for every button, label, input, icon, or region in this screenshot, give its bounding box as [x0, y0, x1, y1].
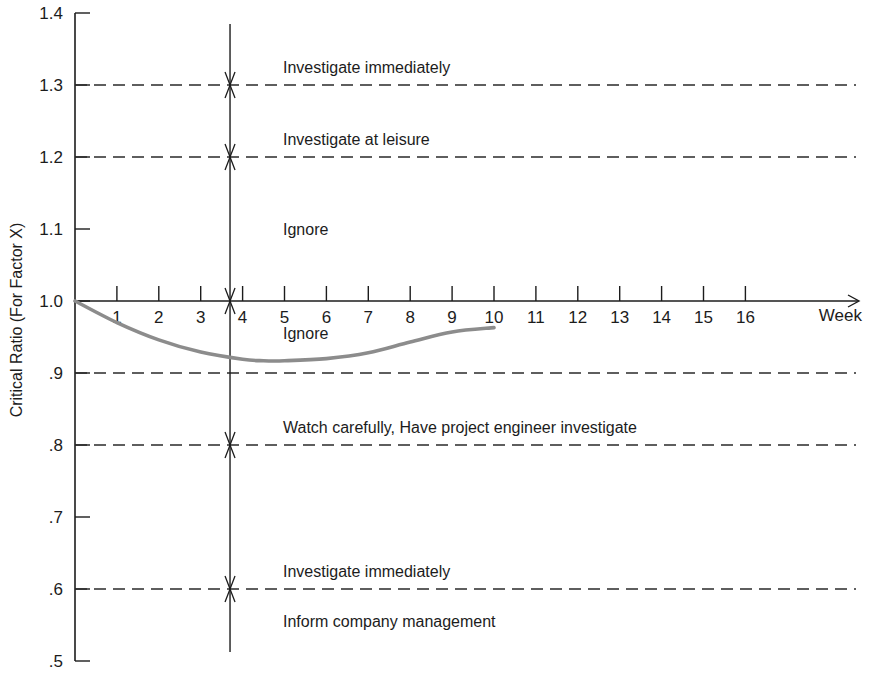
y-tick-label: 1.0: [39, 292, 63, 311]
x-tick-label: 2: [154, 308, 163, 327]
x-tick-label: 10: [485, 308, 504, 327]
y-axis: 1.41.31.21.11.0.9.8.7.6.5: [39, 4, 90, 671]
y-tick-label: 1.3: [39, 76, 63, 95]
x-tick-label: 6: [322, 308, 331, 327]
x-tick-label: 4: [238, 308, 247, 327]
y-tick-label: .9: [49, 364, 63, 383]
x-tick-label: 14: [652, 308, 671, 327]
zone-label: Investigate at leisure: [283, 131, 430, 148]
y-axis-label: Critical Ratio (For Factor X): [8, 223, 25, 418]
x-tick-label: 9: [447, 308, 456, 327]
y-tick-label: 1.4: [39, 4, 63, 23]
x-tick-label: 13: [610, 308, 629, 327]
x-tick-label: 15: [694, 308, 713, 327]
critical-ratio-chart: 1.41.31.21.11.0.9.8.7.6.5 12345678910111…: [0, 0, 871, 681]
x-axis: 12345678910111213141516: [75, 286, 859, 327]
x-tick-label: 7: [364, 308, 373, 327]
y-tick-label: .7: [49, 508, 63, 527]
x-tick-label: 3: [196, 308, 205, 327]
y-tick-label: 1.1: [39, 220, 63, 239]
y-tick-label: .6: [49, 580, 63, 599]
y-tick-label: .5: [49, 652, 63, 671]
x-tick-label: 11: [527, 308, 545, 327]
zone-label: Investigate immediately: [283, 563, 450, 580]
week-marker-arrows: [225, 24, 235, 652]
x-tick-label: 5: [280, 308, 289, 327]
zone-label: Ignore: [283, 221, 328, 238]
zone-label: Investigate immediately: [283, 59, 450, 76]
y-tick-label: 1.2: [39, 148, 63, 167]
zone-label: Inform company management: [283, 613, 496, 630]
x-tick-label: 12: [568, 308, 587, 327]
x-tick-label: 16: [736, 308, 755, 327]
x-tick-label: 8: [405, 308, 414, 327]
y-tick-label: .8: [49, 436, 63, 455]
threshold-lines: [75, 85, 856, 589]
x-axis-label: Week: [819, 306, 863, 325]
zone-label: Ignore: [283, 325, 328, 342]
zone-label: Watch carefully, Have project engineer i…: [283, 419, 637, 436]
zone-labels: Investigate immediatelyInvestigate at le…: [283, 59, 637, 630]
